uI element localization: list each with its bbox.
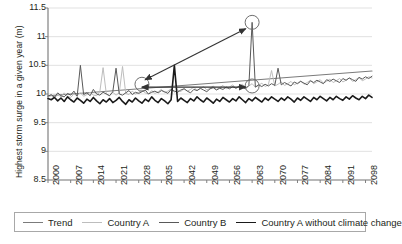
legend-label-2: Country B bbox=[184, 217, 226, 228]
legend-swatch-1 bbox=[82, 222, 102, 223]
legend-swatch-0 bbox=[23, 222, 43, 223]
chart-legend: TrendCountry ACountry BCountry A without… bbox=[14, 212, 366, 232]
series-line-2 bbox=[48, 22, 372, 97]
legend-item-3[interactable]: Country A without climate change bbox=[236, 217, 401, 228]
legend-label-3: Country A without climate change bbox=[261, 217, 401, 228]
legend-label-1: Country A bbox=[107, 217, 149, 228]
legend-item-2[interactable]: Country B bbox=[159, 217, 226, 228]
legend-swatch-3 bbox=[236, 222, 256, 223]
series-line-3 bbox=[48, 65, 372, 104]
legend-item-0[interactable]: Trend bbox=[23, 217, 72, 228]
legend-swatch-2 bbox=[159, 222, 179, 223]
legend-item-1[interactable]: Country A bbox=[82, 217, 149, 228]
legend-label-0: Trend bbox=[48, 217, 72, 228]
